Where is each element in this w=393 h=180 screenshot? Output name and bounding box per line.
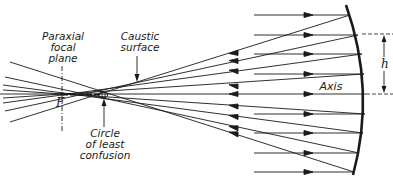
focal-point-label: F bbox=[56, 96, 64, 110]
caustic-surface-label: Caustic surface bbox=[108, 31, 172, 53]
circle-of-least-confusion-pointer bbox=[102, 99, 107, 128]
paraxial-focal-plane-label: Paraxial focal plane bbox=[30, 31, 96, 64]
caustic-surface-pointer bbox=[135, 56, 140, 82]
axis-label: Axis bbox=[316, 81, 346, 92]
concave-mirror bbox=[346, 5, 363, 175]
height-label: h bbox=[380, 57, 390, 71]
circle-of-least-confusion-label: Circle of least confusion bbox=[70, 128, 140, 161]
